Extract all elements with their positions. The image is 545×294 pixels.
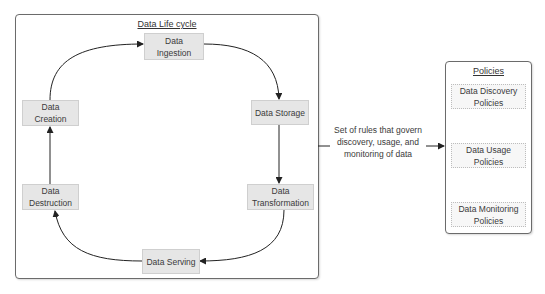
stage-destruction-label: Data Destruction xyxy=(29,185,72,209)
policy-usage: Data Usage Policies xyxy=(451,143,526,168)
policy-usage-label: Data Usage Policies xyxy=(452,144,525,168)
stage-storage-label: Data Storage xyxy=(255,107,305,119)
stage-ingestion: Data Ingestion xyxy=(144,33,204,60)
stage-serving-label: Data Serving xyxy=(146,256,195,268)
policy-monitoring: Data Monitoring Policies xyxy=(451,202,526,227)
stage-creation: Data Creation xyxy=(22,100,79,126)
stage-transformation-label: Data Transformation xyxy=(252,185,309,209)
stage-destruction: Data Destruction xyxy=(22,184,79,210)
policy-discovery-label: Data Discovery Policies xyxy=(452,85,525,109)
stage-serving: Data Serving xyxy=(142,249,200,274)
policy-monitoring-label: Data Monitoring Policies xyxy=(452,203,525,227)
connector-label: Set of rules that govern discovery, usag… xyxy=(331,124,425,160)
policy-discovery: Data Discovery Policies xyxy=(451,84,526,109)
stage-transformation: Data Transformation xyxy=(247,184,314,210)
stage-storage: Data Storage xyxy=(251,100,309,125)
stage-ingestion-label: Data Ingestion xyxy=(157,35,192,59)
stage-creation-label: Data Creation xyxy=(34,101,66,125)
